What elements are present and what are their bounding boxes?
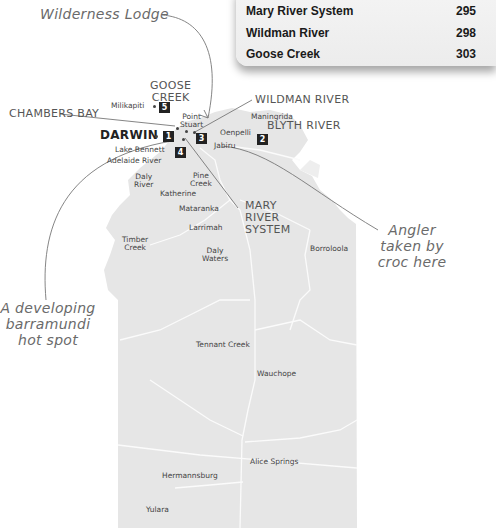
site-badge-5: 5	[159, 102, 170, 113]
place-tennant-creek: Tennant Creek	[196, 341, 250, 349]
place-larrimah: Larrimah	[189, 224, 223, 232]
place-oenpelli: Oenpelli	[220, 129, 251, 137]
point-stuart-dot	[185, 130, 188, 133]
place-lake-bennett: Lake Bennett	[115, 146, 165, 154]
place-wauchope: Wauchope	[257, 370, 296, 378]
site-badge-3: 3	[196, 133, 207, 144]
place-timber-creek: Timber Creek	[122, 236, 148, 252]
annotation-barramundi: A developing barramundi hot spot	[0, 300, 96, 348]
legend-row-goose-creek: Goose Creek 303	[246, 47, 496, 67]
annotation-angler: Angler taken by croc here	[372, 222, 452, 270]
place-maningrida: Maningrida	[251, 113, 293, 121]
wildman-dot	[193, 131, 196, 134]
place-pine-creek: Pine Creek	[190, 172, 212, 188]
region-mary-river-system: MARY RIVER SYSTEM	[245, 200, 291, 236]
place-jabiru: Jabiru	[214, 142, 236, 150]
place-alice-springs: Alice Springs	[250, 458, 299, 466]
milikapiti-dot	[153, 105, 156, 108]
darwin-dot	[155, 135, 158, 138]
place-borroloola: Borroloola	[310, 245, 348, 253]
place-yulara: Yulara	[146, 506, 169, 514]
place-mataranka: Mataranka	[179, 205, 219, 213]
place-milikapiti: Milikapiti	[111, 102, 144, 110]
region-wildman-river: WILDMAN RIVER	[255, 94, 349, 106]
site-badge-1: 1	[163, 131, 174, 142]
legend-row-wildman-river: Wildman River 298	[246, 26, 496, 46]
region-chambers-bay: CHAMBERS BAY	[9, 108, 99, 120]
place-katherine: Katherine	[160, 190, 196, 198]
region-goose-creek: GOOSE CREEK	[150, 80, 191, 104]
region-darwin: DARWIN	[100, 129, 158, 141]
place-daly-waters: Daly Waters	[202, 247, 228, 263]
legend-row-mary-river: Mary River System 295	[246, 4, 496, 24]
legend-card: Mary River System 295 Wildman River 298 …	[236, 0, 496, 66]
mary-river-dot	[182, 138, 185, 141]
site-badge-2: 2	[257, 134, 268, 145]
chambers-bay-dot	[176, 127, 179, 130]
place-hermannsburg: Hermannsburg	[162, 472, 218, 480]
place-point-stuart: Point Stuart	[180, 113, 203, 129]
site-badge-4: 4	[175, 147, 186, 158]
place-daly-river: Daly River	[134, 173, 153, 189]
place-adelaide-river: Adelaide River	[107, 157, 161, 165]
region-blyth-river: BLYTH RIVER	[267, 120, 341, 132]
annotation-lodge: Wilderness Lodge	[40, 6, 169, 22]
